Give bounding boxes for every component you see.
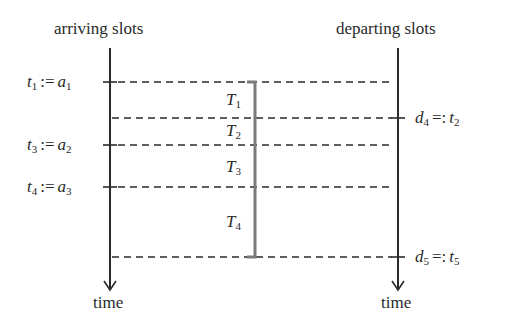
label-t4-a3: t4:=a3 xyxy=(27,178,72,197)
label-d5-t5: d5=:t5 xyxy=(415,248,460,267)
left-axis-title: arriving slots xyxy=(54,20,143,37)
diagram-canvas xyxy=(0,0,507,327)
label-d4-t2: d4=:t2 xyxy=(415,109,460,128)
right-axis-time-label: time xyxy=(381,294,411,311)
left-axis-time-label: time xyxy=(93,294,123,311)
right-axis-title: departing slots xyxy=(336,20,436,37)
interval-label-T1: T1 xyxy=(226,91,241,110)
interval-label-T4: T4 xyxy=(226,213,241,232)
interval-label-T3: T3 xyxy=(226,158,241,177)
interval-label-T2: T2 xyxy=(226,122,241,141)
interval-bracket xyxy=(247,82,255,257)
label-t1-a1: t1:=a1 xyxy=(27,73,72,92)
label-t3-a2: t3:=a2 xyxy=(27,136,72,155)
